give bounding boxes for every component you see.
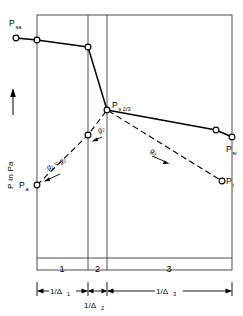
dim-2-label: 1/Δ <box>84 301 97 310</box>
zone-3-label: 3 <box>166 264 171 274</box>
dim-3-sub: 3 <box>173 291 176 297</box>
label-p-i: P i <box>226 176 234 188</box>
marker-p-sa-end <box>13 35 19 41</box>
label-p-si: P si <box>226 144 237 156</box>
marker-p-a <box>34 182 40 188</box>
gradient-annotations: g₁ ≈ g₂ g₂ g₃ <box>44 125 170 182</box>
y-axis-label: P in Pa <box>6 161 15 189</box>
marker-zone1-inlet <box>34 37 40 43</box>
annotation-g1-g2-arrow-icon <box>44 174 61 182</box>
annotation-g3-arrow-icon <box>152 156 170 164</box>
y-axis-group: P in Pa <box>6 88 16 189</box>
dim-arrow-2 <box>88 289 107 294</box>
marker-zone1-zone2-top <box>85 44 91 50</box>
label-p-i-sub: i <box>233 182 234 188</box>
dashed-gradient-profile <box>37 110 222 185</box>
marker-p-s23 <box>104 107 110 113</box>
dim-3-label: 1/Δ <box>156 287 169 296</box>
zone-2-label: 2 <box>95 264 100 274</box>
dim-1-label: 1/Δ <box>50 287 63 296</box>
label-p-si-sub: si <box>233 150 237 156</box>
annotation-g3: g₃ <box>149 147 170 164</box>
marker-p-i <box>219 178 225 184</box>
annotation-g2-arrow-icon <box>92 137 103 142</box>
dim-1-sub: 1 <box>67 291 70 297</box>
label-p-s23-sub: s 2/3 <box>119 106 131 112</box>
zone-1-label: 1 <box>59 264 64 274</box>
label-p-a-sub: a <box>26 186 30 192</box>
pressure-profile-figure: P in Pa P sa P a P s 2/3 <box>0 0 243 316</box>
label-p-a-main: P <box>19 180 25 190</box>
marker-p-si-end <box>229 134 235 140</box>
label-p-sa-main: P <box>9 18 15 28</box>
label-p-a: P a <box>19 180 30 192</box>
label-p-si-main: P <box>226 144 232 154</box>
annotation-g1-g2-label: g₁ ≈ g₂ <box>45 156 67 172</box>
label-p-s23-main: P <box>112 100 118 110</box>
up-arrow-icon <box>10 88 16 115</box>
dimension-labels: 1/Δ 1 1/Δ 2 1/Δ 3 <box>49 285 183 311</box>
marker-zone3-outlet <box>213 127 219 133</box>
label-p-s23: P s 2/3 <box>112 100 131 112</box>
label-p-sa-sub: sa <box>16 24 23 30</box>
zone-frame <box>37 15 232 270</box>
solid-pressure-profile <box>16 38 232 137</box>
diagram-canvas: P in Pa P sa P a P s 2/3 <box>0 0 243 316</box>
label-p-sa: P sa <box>9 18 22 30</box>
zone-labels: 1 2 3 <box>59 264 171 274</box>
annotation-g3-label: g₃ <box>149 147 159 157</box>
annotation-g1-g2: g₁ ≈ g₂ <box>44 156 68 182</box>
marker-zone1-zone2-dashed <box>85 132 91 138</box>
dim-2-sub: 2 <box>101 305 104 311</box>
label-p-i-main: P <box>226 176 232 186</box>
annotation-g2-label: g₂ <box>96 125 106 135</box>
point-labels: P sa P a P s 2/3 P si P i <box>9 18 237 192</box>
